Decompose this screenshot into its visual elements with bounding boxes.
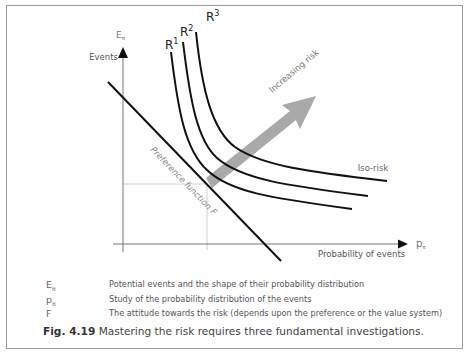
legend-description: Potential events and the shape of their … <box>109 279 364 289</box>
y-axis-arrow-icon <box>118 47 128 58</box>
figure-number: Fig. 4.19 <box>43 325 95 337</box>
iso-risk-label: Iso-risk <box>358 163 389 173</box>
y-axis-label: Events <box>89 52 118 62</box>
legend-symbol: F <box>46 308 86 321</box>
x-axis-arrow-icon <box>398 240 408 249</box>
curve-label-r2: R2 <box>180 24 193 39</box>
legend-description: The attitude towards the risk (depends u… <box>109 308 442 318</box>
figure-caption: Fig. 4.19 Mastering the risk requires th… <box>0 325 467 337</box>
y-axis-symbol: Eπ <box>116 30 126 41</box>
curve-label-r3: R3 <box>206 9 219 24</box>
legend-description: Study of the probability distribution of… <box>109 294 311 304</box>
x-axis-symbol: pπ <box>416 238 426 250</box>
legend-symbol: pπ <box>46 294 86 307</box>
legend-symbol: Eπ <box>46 279 86 292</box>
x-axis-label: Probability of events <box>318 249 406 259</box>
increasing-risk-arrow-icon <box>206 96 316 188</box>
iso-risk-curve-r1 <box>171 52 352 209</box>
caption-text: Mastering the risk requires three fundam… <box>99 325 424 337</box>
increasing-risk-label: Increasing risk <box>267 47 321 94</box>
curve-label-r1: R1 <box>165 37 178 52</box>
